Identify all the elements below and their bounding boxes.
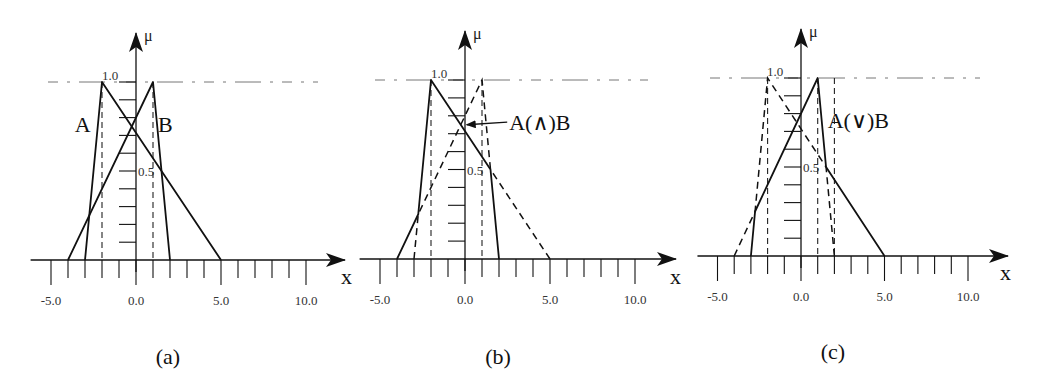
panel-c: -5.00.05.010.01.00.5μxA(∨)B(c)	[697, 23, 1011, 364]
mu-axis-label: μ	[144, 27, 153, 45]
set-label: A(∨)B	[828, 108, 889, 133]
y-tick-label-1: 1.0	[102, 68, 118, 83]
x-tick-label: 0.0	[457, 292, 473, 307]
y-tick-label-0-5: 0.5	[138, 164, 154, 179]
x-tick-label: -5.0	[707, 289, 728, 304]
set-label: A(∧)B	[509, 110, 570, 135]
panel-caption: (b)	[485, 344, 511, 369]
x-axis-label: x	[670, 264, 681, 289]
x-tick-label: 5.0	[213, 293, 229, 308]
x-axis-label: x	[1000, 260, 1011, 285]
panel-a: -5.00.05.010.01.00.5μxAB(a)	[31, 27, 352, 369]
x-axis-label: x	[341, 264, 352, 289]
y-tick-label-0-5: 0.5	[803, 160, 819, 175]
mu-axis-label: μ	[473, 25, 482, 43]
x-tick-label: 10.0	[957, 289, 980, 304]
mu-axis-label: μ	[809, 23, 818, 41]
x-tick-label: 5.0	[876, 289, 892, 304]
panel-caption: (a)	[156, 344, 180, 369]
x-tick-label: -5.0	[41, 293, 62, 308]
y-tick-label-0-5: 0.5	[467, 163, 483, 178]
x-tick-label: 10.0	[295, 293, 318, 308]
x-tick-label: 0.0	[128, 293, 144, 308]
set-label: A	[75, 112, 91, 137]
y-tick-label-1: 1.0	[431, 66, 447, 81]
annotation-arrow	[467, 122, 508, 125]
y-tick-label-1: 1.0	[767, 64, 783, 79]
x-tick-label: 0.0	[793, 289, 809, 304]
panel-caption: (c)	[821, 339, 845, 364]
panel-b: -5.00.05.010.01.00.5μxA(∧)B(b)	[360, 25, 681, 369]
x-tick-label: 5.0	[542, 292, 558, 307]
set-label: B	[158, 112, 173, 137]
x-tick-label: 10.0	[624, 292, 647, 307]
fuzzy-set-figure: -5.00.05.010.01.00.5μxAB(a) -5.00.05.010…	[0, 0, 1041, 387]
x-tick-label: -5.0	[370, 292, 391, 307]
